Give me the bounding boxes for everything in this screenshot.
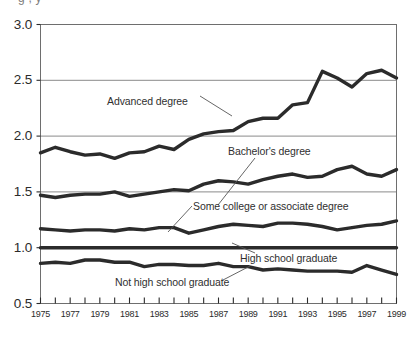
series-line — [41, 221, 397, 233]
series-label-some-college: Some college or associate degree — [193, 200, 349, 212]
data-series-group — [41, 70, 397, 274]
series-label-advanced-degree: Advanced degree — [107, 95, 188, 107]
gridlines-group — [41, 80, 397, 247]
y-axis-tick-label: 2.5 — [2, 72, 32, 87]
y-axis-tick-label: 1.0 — [2, 240, 32, 255]
y-axis-tick-label: 3.0 — [2, 17, 32, 32]
chart-figure: g , y 3.02.52.01.51.00.5 197519771979198… — [0, 0, 413, 338]
y-axis-ticks — [37, 25, 41, 304]
series-label-bachelors-degree: Bachelor's degree — [228, 145, 311, 157]
x-axis-ticks — [41, 298, 397, 304]
series-label-high-school-graduate: High school graduate — [240, 252, 337, 264]
annotation-leader-line — [200, 96, 232, 116]
series-line — [41, 166, 397, 197]
series-line — [41, 70, 397, 158]
y-axis-tick-label: 1.5 — [2, 184, 32, 199]
y-axis-tick-label: 2.0 — [2, 128, 32, 143]
x-axis-tick-label: 1999 — [380, 309, 413, 319]
series-label-not-high-school-graduate: Not high school graduate — [115, 276, 229, 288]
series-line — [41, 260, 397, 275]
